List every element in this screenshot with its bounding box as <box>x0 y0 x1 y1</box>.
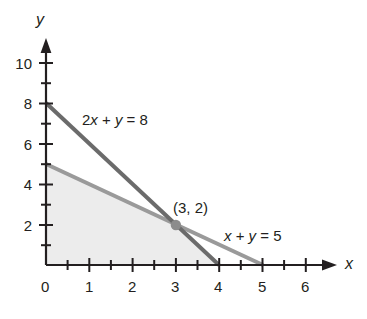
graph-figure: 10 8 6 4 2 0 1 2 3 4 5 6 y x 2x + y = 8 … <box>0 0 367 319</box>
y-tick-label-8: 8 <box>2 96 32 111</box>
y-tick-label-10: 10 <box>2 56 32 71</box>
y-axis-arrowhead <box>41 38 52 53</box>
eq1-variable-x: x <box>90 111 98 128</box>
x-tick-label-4: 4 <box>214 279 222 294</box>
x-tick-label-1: 1 <box>85 279 93 294</box>
eq1-operator: + <box>98 111 115 128</box>
equation-label-2x-plus-y-equals-8: 2x + y = 8 <box>82 112 148 127</box>
y-tick-label-6: 6 <box>2 137 32 152</box>
eq2-variable-x: x <box>224 227 232 244</box>
x-tick-label-6: 6 <box>301 279 309 294</box>
linear-programming-plot <box>0 0 367 319</box>
x-tick-label-5: 5 <box>258 279 266 294</box>
x-axis-arrowhead <box>322 260 337 271</box>
y-tick-label-2: 2 <box>2 218 32 233</box>
eq2-equals-value: = 5 <box>256 227 281 244</box>
x-axis-label: x <box>345 256 353 272</box>
intersection-point-label: (3, 2) <box>173 200 208 215</box>
y-axis-label: y <box>36 12 44 28</box>
x-tick-label-3: 3 <box>171 279 179 294</box>
eq2-variable-y: y <box>249 227 257 244</box>
x-tick-label-2: 2 <box>128 279 136 294</box>
eq1-equals-value: = 8 <box>122 111 147 128</box>
eq2-operator: + <box>232 227 249 244</box>
intersection-point-marker <box>171 220 181 230</box>
equation-label-x-plus-y-equals-5: x + y = 5 <box>224 228 282 243</box>
y-tick-label-4: 4 <box>2 177 32 192</box>
x-tick-label-0: 0 <box>41 279 49 294</box>
